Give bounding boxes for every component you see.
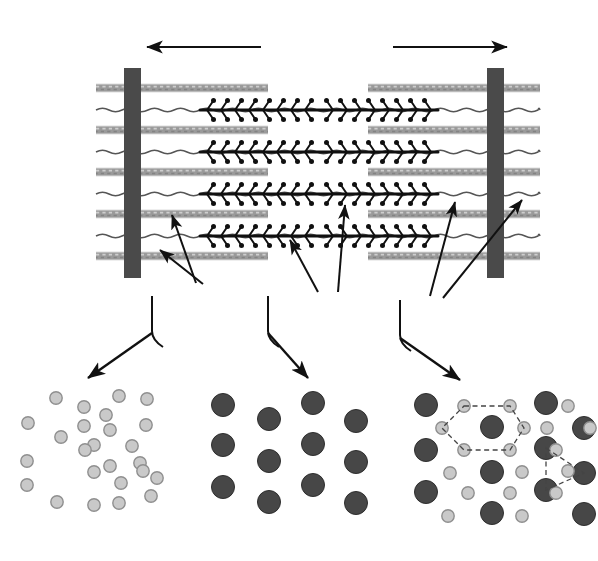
myosin-head-knob [281,117,286,122]
actin-cross-section-circle [78,420,90,432]
arrow-to-combined-panel [400,338,460,380]
myosin-filament [200,98,438,122]
myosin-head-knob [239,98,244,103]
myosin-head-knob [309,182,314,187]
myosin-head [394,98,403,110]
myosin-head-knob [295,243,300,248]
myosin-head-knob [239,201,244,206]
label-brackets-group [152,296,411,351]
myosin-cross-section-circle [258,491,281,514]
myosin-head-knob [380,98,385,103]
myosin-head-knob [281,182,286,187]
myosin-head [352,140,361,152]
myosin-head-knob [422,98,427,103]
actin-cross-section-circle [442,510,454,522]
actin-cross-section-circle [21,455,33,467]
myosin-head-knob [267,243,272,248]
myosin-head [366,152,375,164]
myosin-head-knob [253,224,258,229]
myosin-head [422,224,431,236]
myosin-head-knob [295,182,300,187]
actin-filament [368,213,540,216]
myosin-head-knob [394,159,399,164]
myosin-head-knob [408,224,413,229]
myosin-head [324,182,333,194]
myosin-head-knob [295,224,300,229]
myosin-head-knob [309,117,314,122]
sarcomere-figure [0,0,598,561]
myosin-head-knob [211,201,216,206]
myosin-head [380,236,389,248]
myosin-head-knob [225,201,230,206]
myosin-head-knob [352,182,357,187]
myosin-head-knob [408,159,413,164]
myosin-head-knob [352,117,357,122]
myosin-head [305,152,314,164]
myosin-head-knob [408,243,413,248]
myosin-head [338,152,347,164]
actin-filament [368,171,540,174]
myosin-head-knob [422,182,427,187]
myosin-head-knob [309,201,314,206]
actin-cross-section-circle [104,460,116,472]
myosin-head-knob [380,117,385,122]
myosin-head [291,224,300,236]
myosin-head [422,98,431,110]
myosin-head-knob [211,182,216,187]
myosin-head-knob [295,140,300,145]
myosin-head-knob [309,159,314,164]
myosin-head-knob [324,243,329,248]
z-line-bar [124,68,141,278]
actin-cross-section-circle [562,465,574,477]
myosin-head [305,236,314,248]
myosin-head [408,110,417,122]
actin-cross-section-circle [562,400,574,412]
myosin-head-knob [352,224,357,229]
myosin-head [263,98,272,110]
actin-cross-section-circle [113,497,125,509]
myosin-head-knob [380,140,385,145]
myosin-head [324,98,333,110]
myosin-cross-section-circle [302,392,325,415]
myosin-head-knob [295,159,300,164]
myosin-cross-section-circle [345,410,368,433]
actin-filament [368,255,540,258]
myosin-head-knob [338,159,343,164]
myosin-cross-section-circle [212,434,235,457]
myosin-head [394,140,403,152]
myosin-head-knob [394,243,399,248]
myosin-cross-section-circle [258,408,281,431]
actin-cross-section-circle [550,487,562,499]
myosin-head-knob [380,243,385,248]
myosin-head-knob [380,182,385,187]
myosin-head-knob [295,201,300,206]
myosin-head [366,98,375,110]
myosin-head-knob [239,224,244,229]
myosin-head [235,140,244,152]
myosin-head [277,152,286,164]
myosin-head-knob [253,159,258,164]
myosin-head-knob [211,98,216,103]
myosin-cross-section-circle [212,476,235,499]
myosin-head [324,140,333,152]
myosin-head-knob [394,224,399,229]
myosin-head-knob [422,201,427,206]
myosin-head [263,182,272,194]
myosin-head-knob [211,159,216,164]
myosin-head [324,224,333,236]
myosin-head [380,152,389,164]
myosin-cross-section-circle [212,394,235,417]
myosin-head-knob [239,243,244,248]
myosin-head-knob [225,224,230,229]
actin-filaments-group [96,87,540,258]
myosin-head-knob [366,98,371,103]
myosin-head-knob [366,140,371,145]
actin-cross-section-circle [151,472,163,484]
myosin-head-knob [239,182,244,187]
actin-filament [96,255,268,258]
myosin-head [207,152,216,164]
actin-filament [368,129,540,132]
myosin-head-knob [281,98,286,103]
myosin-filament [200,224,438,248]
myosin-head [394,224,403,236]
